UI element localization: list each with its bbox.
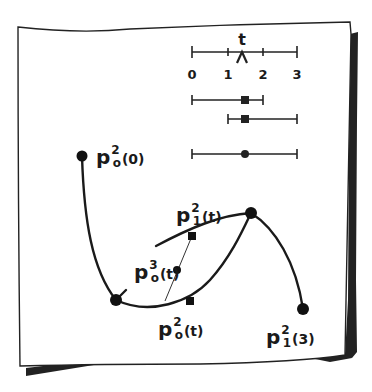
- square-marker-icon: [241, 96, 249, 104]
- label-sup: 2: [191, 201, 199, 215]
- label-sub: 1: [283, 336, 291, 350]
- label-p0-2-0: p2o(0): [96, 147, 144, 167]
- label-sub: o: [151, 271, 159, 285]
- label-sub: o: [175, 328, 183, 342]
- tick-label-3: 3: [292, 67, 301, 82]
- node-knot-1: [110, 294, 122, 306]
- node-p0-2-t: [186, 297, 194, 305]
- node-p0-2-0: [77, 151, 88, 162]
- label-base: p: [266, 325, 280, 349]
- node-p1-2-t: [188, 232, 196, 240]
- tick-label-2: 2: [258, 67, 267, 82]
- node-p1-2-3: [297, 303, 309, 315]
- tick-label-1: 1: [223, 67, 232, 82]
- label-p0-2-t: p2o(t): [158, 319, 203, 339]
- label-sup: 2: [111, 143, 119, 157]
- label-sup: 3: [149, 258, 157, 272]
- label-arg: (t): [184, 323, 204, 339]
- label-arg: (0): [122, 151, 145, 167]
- label-base: p: [158, 317, 172, 341]
- t-variable-label: t: [238, 30, 246, 49]
- label-arg: (3): [292, 331, 315, 347]
- square-marker-icon: [241, 115, 249, 123]
- label-sub: 1: [193, 214, 201, 228]
- label-base: p: [96, 145, 110, 169]
- label-base: p: [176, 203, 190, 227]
- label-arg: (t): [160, 266, 180, 282]
- circle-marker-icon: [241, 150, 249, 158]
- label-sup: 2: [281, 323, 289, 337]
- label-p1-2-3: p21(3): [266, 327, 315, 347]
- node-knot-2: [245, 207, 257, 219]
- tick-label-0: 0: [187, 67, 196, 82]
- label-base: p: [134, 260, 148, 284]
- label-p1-2-t: p21(t): [176, 205, 222, 225]
- label-arg: (t): [202, 209, 222, 225]
- label-p0-3-t: p3o(t): [134, 262, 179, 282]
- label-sup: 2: [173, 315, 181, 329]
- label-sub: o: [113, 156, 121, 170]
